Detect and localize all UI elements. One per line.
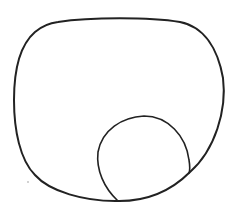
stray-mark <box>27 181 29 183</box>
sketch-svg <box>0 0 234 213</box>
diagram-canvas <box>0 0 234 213</box>
outer-shape <box>14 18 224 201</box>
inner-circle <box>98 116 190 201</box>
